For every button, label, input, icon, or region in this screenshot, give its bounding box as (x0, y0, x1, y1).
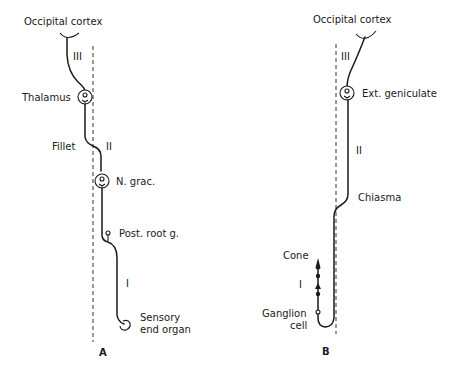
post-root-ganglion-icon (106, 231, 110, 235)
panel-b-letter: B (322, 346, 330, 357)
panel-a-label-i: I (126, 278, 129, 289)
panel-a-neuron-iii (67, 38, 85, 91)
panel-b-label-ganglion-1: Ganglion (262, 308, 307, 319)
panel-b-label-ext-geniculate: Ext. geniculate (362, 88, 437, 99)
bipolar-arrow-icon (315, 283, 321, 289)
bipolar-node-icon (316, 292, 320, 296)
panel-a: Occipital cortex III Thalamus Fillet II … (21, 16, 191, 358)
neural-pathway-diagram: Occipital cortex III Thalamus Fillet II … (0, 0, 452, 369)
panel-a-neuron-i (102, 188, 124, 324)
panel-a-label-sensory-1: Sensory (140, 312, 180, 323)
panel-b: Occipital cortex III Ext. geniculate II … (262, 14, 437, 357)
panel-b-label-iii: III (341, 51, 350, 62)
panel-b-label-cone: Cone (283, 250, 309, 261)
panel-a-label-n-grac: N. grac. (116, 176, 155, 187)
panel-b-label-ganglion-2: cell (290, 320, 307, 331)
bipolar-node-icon-2 (316, 274, 320, 278)
panel-b-title: Occipital cortex (313, 14, 391, 25)
panel-a-label-ii: II (106, 141, 112, 152)
sensory-end-organ-icon (120, 320, 130, 330)
panel-a-label-post-root: Post. root g. (119, 228, 179, 239)
panel-a-cortex-arc (60, 33, 79, 38)
panel-b-label-i: I (299, 279, 302, 290)
panel-a-label-iii: III (73, 51, 82, 62)
panel-b-label-ii: II (356, 145, 362, 156)
panel-b-neuron-ii (318, 100, 348, 327)
panel-a-label-thalamus: Thalamus (21, 92, 71, 103)
panel-b-cortex-arc (356, 31, 376, 38)
panel-a-title: Occipital cortex (24, 16, 102, 27)
cone-icon (316, 258, 321, 270)
panel-b-label-chiasma: Chiasma (358, 192, 401, 203)
panel-a-letter: A (99, 347, 107, 358)
panel-b-neuron-iii (347, 37, 365, 88)
panel-a-label-sensory-2: end organ (140, 324, 191, 335)
panel-a-label-fillet: Fillet (52, 141, 76, 152)
